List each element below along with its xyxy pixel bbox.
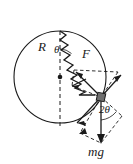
label-radius: R: [38, 40, 46, 53]
diagram-canvas: [0, 0, 133, 164]
vector-mg-component-left: [79, 128, 87, 134]
label-spring-force: F: [82, 47, 90, 60]
label-two-theta: 2θ: [99, 104, 110, 115]
center-dot: [58, 75, 63, 80]
vector-tangential-component: [77, 97, 101, 126]
label-weight: mg: [88, 145, 104, 158]
block-mass: [96, 92, 105, 101]
label-theta: θ: [54, 44, 59, 55]
physics-diagram: R θ F 2θ mg: [0, 0, 133, 164]
